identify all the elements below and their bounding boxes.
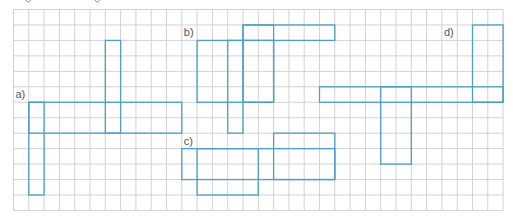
cropped-text-fragment [26,0,100,2]
figure-label-a: a) [16,88,26,100]
grid-figure: a)b)c)d) [0,0,513,222]
figure-b [197,25,335,133]
figure-label-c: c) [184,135,193,147]
figure-label-d: d) [444,26,454,38]
shapes [29,25,503,195]
figure-label-b: b) [184,26,194,38]
